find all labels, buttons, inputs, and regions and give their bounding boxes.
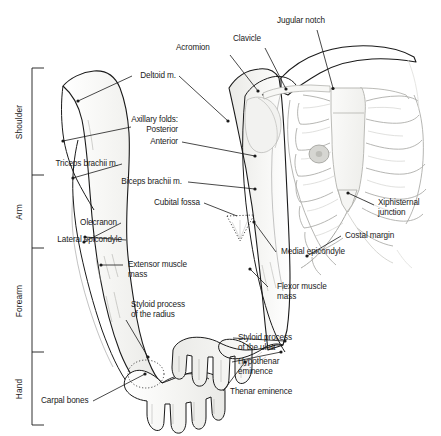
label-thenar-eminence: Thenar eminence xyxy=(230,387,292,397)
label-styloid-process-ulna: Styloid process of the ulna xyxy=(238,333,292,353)
label-axillary-anterior: Anterior xyxy=(84,137,178,147)
region-bracket xyxy=(32,68,44,425)
label-biceps-brachii: Biceps brachii m. xyxy=(90,177,182,187)
label-deltoid: Deltoid m. xyxy=(84,71,176,81)
label-clavicle: Clavicle xyxy=(233,34,261,44)
anatomy-figure: Shoulder Arm Forearm Hand Jugular notch … xyxy=(0,0,441,436)
region-label-shoulder: Shoulder xyxy=(14,96,24,148)
label-hypothenar-eminence: Hypothenar eminence xyxy=(238,357,279,377)
ribs-right xyxy=(357,95,426,246)
leader-deltoid xyxy=(179,76,228,121)
label-axillary-folds: Axillary folds: xyxy=(84,115,178,125)
leader-cubital-fossa xyxy=(204,203,237,216)
label-axillary-posterior: Posterior xyxy=(84,125,178,135)
label-extensor-muscle-mass: Extensor muscle mass xyxy=(128,260,187,280)
label-triceps-brachii: Triceps brachii m. xyxy=(26,159,118,169)
label-styloid-process-radius: Styloid process of the radius xyxy=(131,300,185,320)
label-medial-epicondyle: Medial epicondyle xyxy=(281,247,345,257)
leader-biceps xyxy=(188,182,255,189)
region-label-arm: Arm xyxy=(14,192,24,232)
label-carpal-bones: Carpal bones xyxy=(41,396,89,406)
label-lateral-epicondyle: Lateral epicondyle xyxy=(30,235,122,245)
region-label-hand: Hand xyxy=(14,368,24,410)
label-cubital-fossa: Cubital fossa xyxy=(122,198,200,208)
label-olecranon: Olecranon xyxy=(55,218,117,228)
label-costal-margin: Costal margin xyxy=(345,231,394,241)
label-xiphisternal-junction: Xiphisternal junction xyxy=(378,198,420,218)
region-label-forearm: Forearm xyxy=(14,276,24,326)
label-flexor-muscle-mass: Flexor muscle mass xyxy=(277,282,327,302)
label-jugular-notch: Jugular notch xyxy=(277,16,325,26)
label-acromion: Acromion xyxy=(176,43,210,53)
